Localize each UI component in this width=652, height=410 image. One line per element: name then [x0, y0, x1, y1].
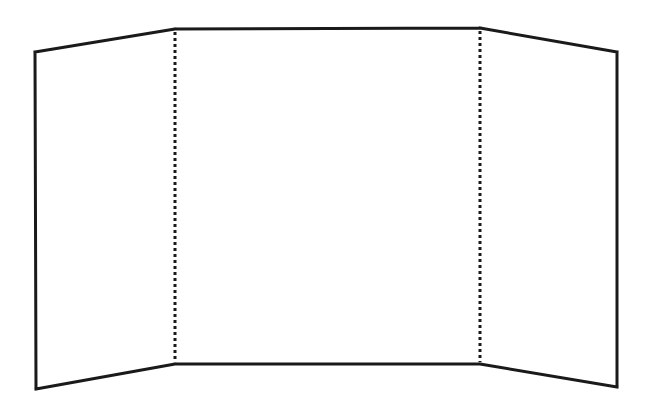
trifold-board-diagram: [0, 0, 652, 410]
left-panel: [35, 29, 175, 389]
center-panel: [175, 28, 480, 364]
right-panel: [480, 28, 617, 387]
